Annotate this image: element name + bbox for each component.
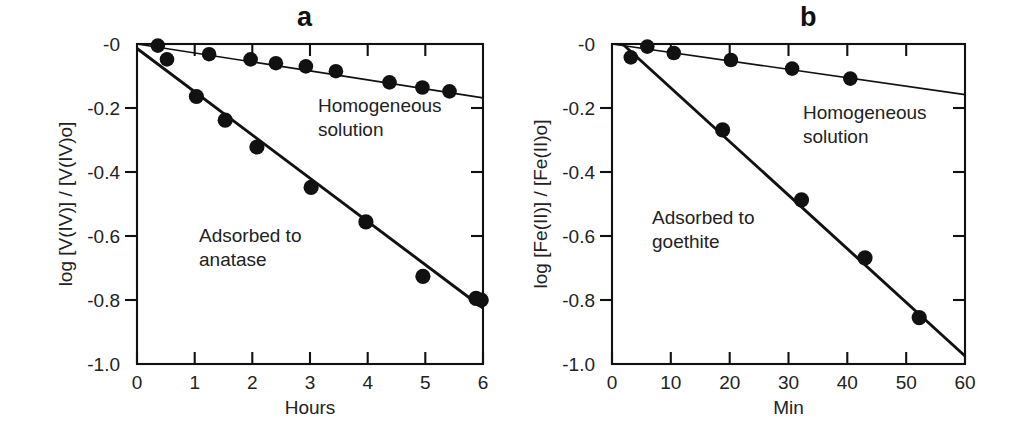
data-point — [329, 64, 344, 79]
data-point — [912, 310, 927, 325]
panel-b-y-axis-title: log [Fe(II)] / [Fe(II)o] — [530, 120, 551, 289]
panel-a-y-ticks — [125, 108, 137, 300]
panel-b-x-ticks — [612, 352, 965, 364]
x-tick-label: 1 — [189, 372, 200, 393]
annotation-line: Homogeneous — [803, 102, 927, 123]
figure-container: a — [0, 0, 1020, 432]
panel-a-y-tick-labels: -0 -0.2 -0.4 -0.6 -0.8 -1.0 — [87, 34, 120, 375]
data-point — [415, 269, 430, 284]
panel-b-x-axis-title: Min — [773, 397, 804, 418]
data-point — [785, 61, 800, 76]
data-point — [715, 122, 730, 137]
data-point — [442, 84, 457, 99]
x-tick-label: 4 — [362, 372, 373, 393]
data-point — [189, 89, 204, 104]
x-tick-label: 3 — [305, 372, 316, 393]
panel-a: a — [0, 0, 510, 432]
panel-b-adsorbed-fit-line — [623, 44, 965, 356]
y-tick-label: -0.4 — [562, 162, 595, 183]
annotation-line: solution — [318, 119, 384, 140]
x-tick-label: 5 — [420, 372, 431, 393]
annotation-line: goethite — [652, 231, 720, 252]
data-point — [304, 180, 319, 195]
annotation-line: Adsorbed to — [652, 207, 754, 228]
data-point — [474, 292, 489, 307]
panel-b-y-tick-labels: -0 -0.2 -0.4 -0.6 -0.8 -1.0 — [562, 34, 595, 375]
data-point — [843, 71, 858, 86]
data-point — [624, 50, 639, 65]
data-point — [415, 80, 430, 95]
y-tick-label: -0.6 — [562, 226, 595, 247]
y-tick-label: -0.6 — [87, 226, 120, 247]
panel-b-x-ticks-top — [671, 44, 906, 56]
data-point — [160, 52, 175, 67]
panel-a-y-axis-title: log [V(IV)] / [V(IV)o] — [55, 122, 76, 287]
panel-a-adsorbed-fit-line — [137, 49, 483, 309]
x-tick-label: 40 — [837, 372, 858, 393]
panel-a-x-ticks-top — [195, 44, 426, 56]
y-tick-label: -0.8 — [562, 290, 595, 311]
y-tick-label: -0.2 — [87, 98, 120, 119]
data-point — [857, 250, 872, 265]
panel-a-annotation-homogeneous: Homogeneous solution — [318, 95, 442, 140]
x-tick-label: 60 — [954, 372, 975, 393]
data-point — [667, 46, 682, 61]
panel-a-y-ticks-right — [471, 108, 483, 300]
panel-a-x-axis-title: Hours — [285, 397, 336, 418]
panel-b-y-ticks-right — [953, 108, 965, 300]
x-tick-label: 0 — [607, 372, 618, 393]
panel-a-x-tick-labels: 0 1 2 3 4 5 6 — [132, 372, 489, 393]
y-tick-label: -1.0 — [562, 354, 595, 375]
data-point — [249, 139, 264, 154]
annotation-line: anatase — [199, 249, 267, 270]
x-tick-label: 30 — [778, 372, 799, 393]
y-tick-label: -0 — [103, 34, 120, 55]
y-tick-label: -0.8 — [87, 290, 120, 311]
panel-a-annotation-adsorbed: Adsorbed to anatase — [199, 225, 301, 270]
y-tick-label: -1.0 — [87, 354, 120, 375]
panel-b-annotation-homogeneous: Homogeneous solution — [803, 102, 927, 147]
panel-b-annotation-adsorbed: Adsorbed to goethite — [652, 207, 754, 252]
panel-a-axes — [137, 44, 483, 364]
data-point — [243, 52, 258, 67]
x-tick-label: 50 — [896, 372, 917, 393]
data-point — [640, 39, 655, 54]
data-point — [794, 192, 809, 207]
annotation-line: Homogeneous — [318, 95, 442, 116]
y-tick-label: -0.2 — [562, 98, 595, 119]
x-tick-label: 20 — [719, 372, 740, 393]
data-point — [382, 75, 397, 90]
data-point — [202, 47, 217, 62]
x-tick-label: 10 — [660, 372, 681, 393]
data-point — [358, 214, 373, 229]
x-tick-label: 6 — [478, 372, 489, 393]
y-tick-label: -0.4 — [87, 162, 120, 183]
panel-b-x-tick-labels: 0 10 20 30 40 50 60 — [607, 372, 976, 393]
data-point — [269, 56, 284, 71]
annotation-line: solution — [803, 126, 869, 147]
data-point — [299, 59, 314, 74]
panel-a-x-ticks — [137, 352, 483, 364]
panel-a-plot: 0 1 2 3 4 5 6 -0 -0.2 -0.4 -0.6 -0.8 -1.… — [0, 0, 510, 432]
panel-b: b — [510, 0, 1020, 432]
data-point — [218, 113, 233, 128]
annotation-line: Adsorbed to — [199, 225, 301, 246]
data-point — [151, 38, 166, 53]
panel-b-plot: 0 10 20 30 40 50 60 -0 -0.2 -0.4 -0.6 -0… — [510, 0, 1020, 432]
panel-b-y-ticks — [600, 108, 612, 300]
y-tick-label: -0 — [578, 34, 595, 55]
x-tick-label: 2 — [247, 372, 258, 393]
x-tick-label: 0 — [132, 372, 143, 393]
data-point — [724, 53, 739, 68]
